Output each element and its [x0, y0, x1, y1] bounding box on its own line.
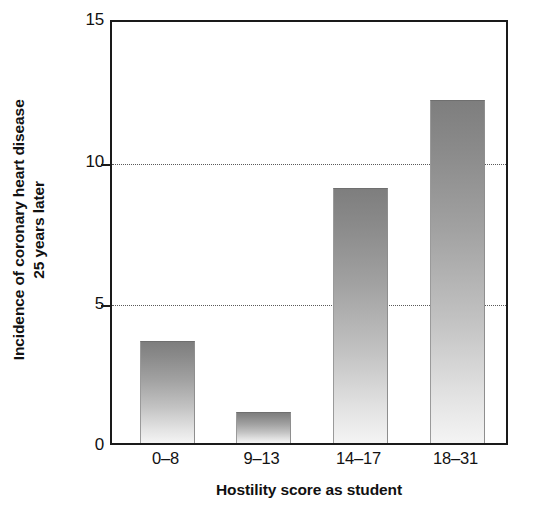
y-tick-label-0: 0	[60, 436, 104, 453]
y-tick-label-15: 15	[60, 11, 104, 28]
bar-18-31	[430, 100, 485, 443]
x-tick-label-0-8: 0–8	[123, 450, 208, 467]
y-tick-mark-10	[101, 164, 112, 166]
y-tick-mark-5	[101, 305, 112, 307]
y-axis-title-line-1: Incidence of coronary heart disease	[8, 100, 28, 361]
y-axis-tick-labels: 15 10 5 0	[56, 0, 104, 470]
y-axis-title: Incidence of coronary heart disease 25 y…	[0, 0, 56, 460]
x-tick-label-9-13: 9–13	[219, 450, 304, 467]
x-tick-label-14-17: 14–17	[316, 450, 401, 467]
bar-9-13	[236, 412, 291, 443]
y-tick-label-5: 5	[60, 295, 104, 312]
y-tick-label-10: 10	[60, 153, 104, 170]
bar-chart-figure: Incidence of coronary heart disease 25 y…	[0, 0, 536, 508]
x-tick-label-18-31: 18–31	[413, 450, 498, 467]
y-axis-title-text: Incidence of coronary heart disease 25 y…	[8, 100, 48, 361]
y-axis-title-line-2: 25 years later	[28, 100, 48, 361]
plot-area	[110, 20, 508, 445]
bar-0-8	[140, 341, 195, 443]
bar-14-17	[333, 188, 388, 443]
x-axis-tick-labels: 0–8 9–13 14–17 18–31	[110, 450, 508, 476]
x-axis-title: Hostility score as student	[110, 482, 508, 498]
